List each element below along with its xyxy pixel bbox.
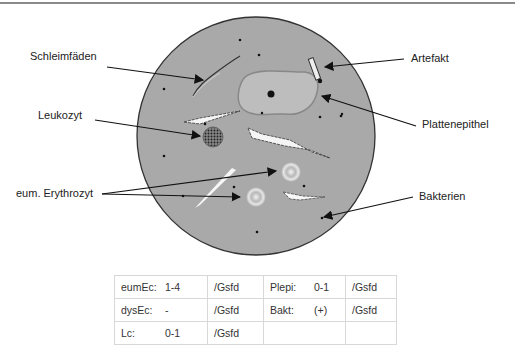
unit: /Gsfd bbox=[346, 299, 397, 322]
table-row: dysEc:- /Gsfd Bakt:(+) /Gsfd bbox=[115, 299, 397, 322]
unit: /Gsfd bbox=[208, 299, 264, 322]
value: 0-1 bbox=[314, 281, 329, 293]
unit: /Gsfd bbox=[208, 276, 264, 299]
label-schleimfaeden: Schleimfäden bbox=[30, 50, 97, 62]
key: eumEc: bbox=[121, 281, 165, 293]
label-plattenepithel: Plattenepithel bbox=[422, 118, 489, 130]
table-row: eumEc:1-4 /Gsfd Plepi:0-1 /Gsfd bbox=[115, 276, 397, 299]
results-table: eumEc:1-4 /Gsfd Plepi:0-1 /Gsfd dysEc:- … bbox=[114, 275, 397, 345]
unit: /Gsfd bbox=[208, 322, 264, 345]
unit bbox=[346, 322, 397, 345]
value: 0-1 bbox=[165, 327, 180, 339]
plattenepithel-cell bbox=[238, 71, 318, 115]
value: 1-4 bbox=[165, 281, 180, 293]
key: Lc: bbox=[121, 327, 165, 339]
label-artefakt: Artefakt bbox=[411, 52, 449, 64]
label-leukozyt: Leukozyt bbox=[38, 109, 82, 121]
label-erythrozyt: eum. Erythrozyt bbox=[16, 187, 93, 199]
key: Plepi: bbox=[270, 281, 314, 293]
erythrozyt-cell bbox=[281, 162, 301, 182]
key: Bakt: bbox=[270, 304, 314, 316]
erythrozyt-cell bbox=[246, 187, 266, 207]
label-bakterien: Bakterien bbox=[419, 190, 465, 202]
value: - bbox=[165, 304, 169, 316]
unit: /Gsfd bbox=[346, 276, 397, 299]
value: (+) bbox=[314, 304, 327, 316]
table-row: Lc:0-1 /Gsfd bbox=[115, 322, 397, 345]
leukozyt-cell bbox=[203, 127, 223, 147]
key: dysEc: bbox=[121, 304, 165, 316]
